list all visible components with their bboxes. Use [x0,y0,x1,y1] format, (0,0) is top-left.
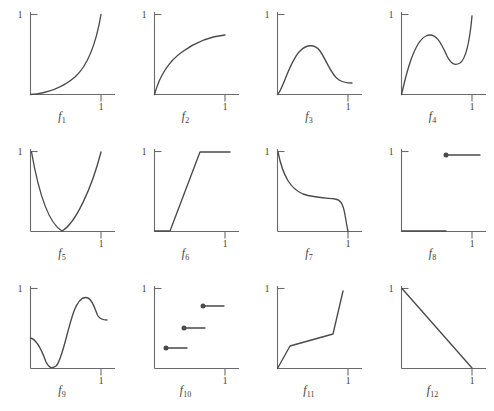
y-tick-label-f7: 1 [265,147,270,157]
axes-f5 [31,149,116,239]
y-tick-label-f9: 1 [18,284,23,294]
curve-f7 [278,152,348,232]
closed-endpoint-dot-3-f10 [200,304,205,309]
y-tick-label-f3: 1 [265,10,270,20]
axes-f4 [401,12,486,102]
closed-endpoint-dot-2-f10 [181,326,186,331]
curve-f6 [154,152,230,231]
panel-label-f4: f4 [371,110,494,122]
axes-f8 [401,149,486,239]
plot-panel-f11: 1 1 f11 [247,274,371,411]
panel-label-f12: f12 [371,384,494,396]
panel-label-f8: f8 [371,247,494,259]
y-tick-label-f10: 1 [141,284,146,294]
curve-f3 [278,46,353,95]
panel-label-f11: f11 [247,384,371,396]
panel-label-f2: f2 [124,110,248,122]
panel-label-f1: f1 [0,110,124,122]
panel-label-f7: f7 [247,247,371,259]
y-tick-label-f4: 1 [388,10,393,20]
plot-panel-f2: 1 1 f2 [124,0,248,137]
y-tick-label-f12: 1 [388,284,393,294]
curve-f1 [31,15,102,95]
closed-endpoint-dot-f8 [443,153,448,158]
curve-f11 [278,291,344,369]
curve-f2 [154,35,225,95]
plot-panel-f4: 1 1 f4 [371,0,494,137]
plot-panel-f7: 1 1 f7 [247,137,371,274]
axes-f3 [278,12,363,102]
y-tick-label-f1: 1 [18,10,23,20]
plot-panel-f3: 1 1 f3 [247,0,371,137]
plot-panel-f5: 1 1 f5 [0,137,124,274]
plot-panel-f8: 1 1 f8 [371,137,494,274]
curve-f5 [32,152,102,231]
closed-endpoint-dot-1-f10 [163,346,168,351]
axes-f1 [31,12,116,102]
axes-f2 [154,12,239,102]
plot-panel-f10: 1 1 f10 [124,274,248,411]
axes-f9 [31,286,116,376]
plot-panel-f12: 1 1 f12 [371,274,494,411]
y-tick-label-f2: 1 [141,10,146,20]
curve-f9 [31,298,108,368]
panel-label-f5: f5 [0,247,124,259]
panel-label-f6: f6 [124,247,248,259]
plot-panel-f6: 1 1 f6 [124,137,248,274]
panel-label-f9: f9 [0,384,124,396]
curve-f4 [401,16,472,95]
axes-f7 [278,149,363,239]
plot-panel-f9: 1 1 f9 [0,274,124,411]
panel-label-f10: f10 [124,384,248,396]
y-tick-label-f6: 1 [141,147,146,157]
axes-f12 [401,286,486,376]
axes-f10 [154,286,239,376]
y-tick-label-f8: 1 [388,147,393,157]
function-plot-grid: 1 1 f1 1 1 f2 1 [0,0,494,411]
y-tick-label-f5: 1 [18,147,23,157]
panel-label-f3: f3 [247,110,371,122]
axes-f11 [278,286,363,376]
y-tick-label-f11: 1 [265,284,270,294]
curve-f12 [402,289,472,369]
plot-panel-f1: 1 1 f1 [0,0,124,137]
